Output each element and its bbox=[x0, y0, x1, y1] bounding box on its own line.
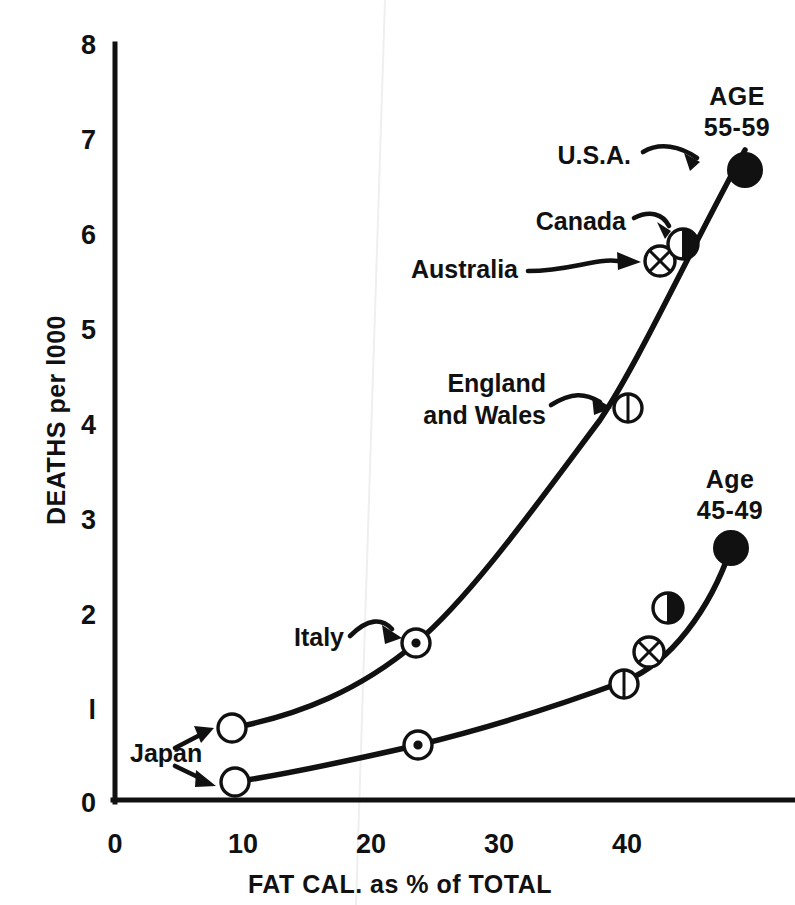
y-axis-title: DEATHS per l000 bbox=[42, 315, 70, 525]
deaths-vs-fat-calories-chart: 8 7 6 5 4 3 2 l 0 0 10 20 30 40 DEATHS p… bbox=[0, 0, 795, 905]
age-45-49-line2: 45-49 bbox=[697, 496, 763, 524]
y-tick-labels: 8 7 6 5 4 3 2 l 0 bbox=[81, 30, 96, 818]
annotation-japan: Japan bbox=[130, 726, 216, 787]
y-tick-0: 0 bbox=[81, 788, 96, 818]
japan-arrowhead-lower bbox=[195, 770, 216, 787]
australia-arrow bbox=[528, 261, 618, 271]
x-tick-10: 10 bbox=[228, 829, 258, 859]
marker-england-45-49[interactable] bbox=[610, 670, 638, 698]
marker-australia-45-49[interactable] bbox=[634, 637, 664, 667]
age-55-59-line2: 55-59 bbox=[704, 113, 770, 141]
x-tick-40: 40 bbox=[612, 829, 642, 859]
marker-usa-55-59[interactable] bbox=[728, 153, 762, 187]
scan-artifact bbox=[356, 0, 385, 905]
y-tick-3: 3 bbox=[81, 505, 96, 535]
canada-label: Canada bbox=[536, 207, 627, 235]
annotation-italy: Italy bbox=[294, 621, 402, 651]
annotation-england: England and Wales bbox=[423, 369, 612, 429]
japan-label: Japan bbox=[130, 739, 202, 767]
marker-england-55-59[interactable] bbox=[614, 394, 642, 422]
y-tick-8: 8 bbox=[81, 30, 96, 60]
y-tick-5: 5 bbox=[81, 315, 96, 345]
marker-canada-45-49[interactable] bbox=[653, 593, 683, 623]
markers-age-55-59 bbox=[218, 153, 762, 742]
marker-japan-55-59[interactable] bbox=[218, 714, 246, 742]
y-tick-2: 2 bbox=[81, 600, 96, 630]
x-tick-labels: 0 10 20 30 40 bbox=[107, 829, 642, 859]
series-label-age-55-59: AGE 55-59 bbox=[704, 82, 770, 141]
annotation-canada: Canada bbox=[536, 207, 671, 239]
chart-figure: 8 7 6 5 4 3 2 l 0 0 10 20 30 40 DEATHS p… bbox=[0, 0, 795, 905]
marker-usa-45-49[interactable] bbox=[714, 531, 748, 565]
age-55-59-line1: AGE bbox=[709, 82, 765, 110]
age-45-49-line1: Age bbox=[706, 465, 755, 493]
x-tick-20: 20 bbox=[356, 829, 386, 859]
annotation-australia: Australia bbox=[411, 252, 641, 283]
italy-label: Italy bbox=[294, 623, 344, 651]
y-tick-1: l bbox=[88, 695, 96, 725]
y-tick-7: 7 bbox=[81, 125, 96, 155]
x-tick-30: 30 bbox=[484, 829, 514, 859]
marker-japan-45-49[interactable] bbox=[221, 768, 249, 796]
marker-italy-55-59[interactable] bbox=[402, 629, 430, 657]
y-tick-6: 6 bbox=[81, 220, 96, 250]
marker-canada-55-59[interactable] bbox=[668, 229, 698, 259]
australia-arrowhead bbox=[617, 252, 641, 270]
marker-italy-45-49[interactable] bbox=[404, 731, 432, 759]
x-tick-0: 0 bbox=[107, 829, 122, 859]
england-label-line1: England bbox=[447, 369, 546, 397]
australia-label: Australia bbox=[411, 255, 519, 283]
y-tick-4: 4 bbox=[81, 410, 96, 440]
canada-arrow bbox=[634, 214, 669, 226]
annotation-usa: U.S.A. bbox=[557, 141, 700, 171]
usa-label: U.S.A. bbox=[557, 141, 631, 169]
england-label-line2: and Wales bbox=[423, 401, 546, 429]
series-label-age-45-49: Age 45-49 bbox=[697, 465, 763, 524]
x-axis-title: FAT CAL. as % of TOTAL bbox=[248, 870, 552, 898]
